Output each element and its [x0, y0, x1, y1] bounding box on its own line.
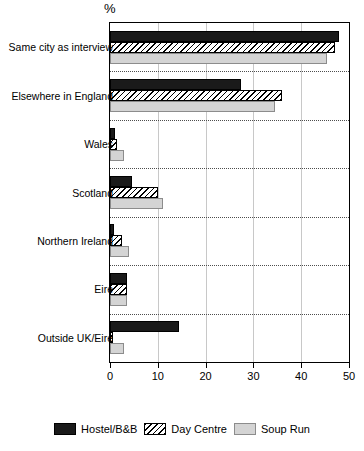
bar-soup-run	[110, 150, 124, 161]
legend-item-soup-run: Soup Run	[234, 423, 310, 435]
category-label: Eire	[94, 283, 113, 295]
bar-hostel	[110, 79, 241, 90]
group-separator	[110, 71, 349, 72]
bar-soup-run	[110, 246, 129, 257]
legend-label-hostel: Hostel/B&B	[81, 423, 137, 435]
bar-soup-run	[110, 198, 163, 209]
x-axis-tick	[158, 363, 159, 368]
bar-group	[110, 176, 349, 209]
bar-group	[110, 128, 349, 161]
x-axis-tick-label: 30	[238, 370, 268, 382]
bar-day-centre	[110, 90, 282, 101]
bar-group	[110, 224, 349, 257]
bar-day-centre	[110, 42, 335, 53]
bar-hostel	[110, 321, 179, 332]
legend-item-day-centre: Day Centre	[144, 423, 227, 435]
bar-group	[110, 273, 349, 306]
bar-soup-run	[110, 53, 327, 64]
legend-item-hostel: Hostel/B&B	[54, 423, 137, 435]
category-label: Wales	[84, 138, 113, 150]
x-axis-tick-label: 10	[143, 370, 173, 382]
bar-soup-run	[110, 101, 275, 112]
bar-hostel	[110, 273, 127, 284]
group-separator	[110, 168, 349, 169]
legend-swatch-day-centre-icon	[144, 423, 166, 435]
plot-area	[110, 23, 349, 362]
legend-label-soup-run: Soup Run	[261, 423, 310, 435]
x-axis-tick	[110, 363, 111, 368]
bar-soup-run	[110, 343, 124, 354]
bar-group	[110, 321, 349, 354]
bar-day-centre	[110, 187, 158, 198]
x-axis-tick	[253, 363, 254, 368]
bar-chart: % Same city as interviewElsewhere in Eng…	[0, 0, 364, 451]
chart-legend: Hostel/B&B Day Centre Soup Run	[0, 418, 364, 440]
bar-hostel	[110, 176, 132, 187]
bar-soup-run	[110, 295, 127, 306]
x-axis-tick	[301, 363, 302, 368]
x-axis-tick-label: 20	[191, 370, 221, 382]
category-label: Scotland	[72, 187, 113, 199]
x-axis-tick-label: 0	[95, 370, 125, 382]
category-label: Same city as interview	[9, 41, 113, 53]
x-axis-tick-label: 40	[286, 370, 316, 382]
category-label: Elsewhere in England	[11, 90, 113, 102]
group-separator	[110, 265, 349, 266]
bar-group	[110, 79, 349, 112]
category-label: Outside UK/Eire	[38, 332, 113, 344]
category-label: Northern Ireland	[37, 235, 113, 247]
bar-hostel	[110, 224, 114, 235]
bar-hostel	[110, 31, 339, 42]
legend-label-day-centre: Day Centre	[171, 423, 227, 435]
axis-unit-label: %	[104, 2, 116, 15]
group-separator	[110, 217, 349, 218]
x-axis-tick	[349, 363, 350, 368]
group-separator	[110, 314, 349, 315]
legend-swatch-hostel-icon	[54, 423, 76, 435]
x-axis-tick-label: 50	[334, 370, 364, 382]
x-axis-tick	[206, 363, 207, 368]
legend-swatch-soup-run-icon	[234, 423, 256, 435]
bar-group	[110, 31, 349, 64]
group-separator	[110, 120, 349, 121]
bar-hostel	[110, 128, 115, 139]
